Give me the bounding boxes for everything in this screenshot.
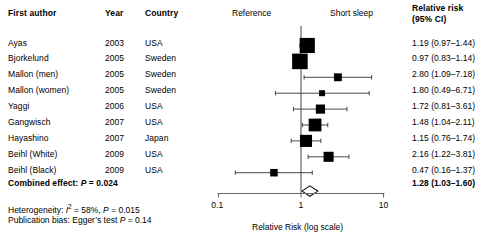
combined-effect-line: Combined effect: P = 0.024 bbox=[8, 178, 118, 188]
heterogeneity-p-value: = 0.015 bbox=[109, 205, 140, 215]
study-marker-box bbox=[334, 73, 342, 81]
combined-effect-p-value: = 0.024 bbox=[86, 178, 117, 188]
forest-plot-figure: First author Year Country Relative risk … bbox=[0, 0, 483, 243]
axis-tick-10: 10 bbox=[379, 200, 388, 210]
publication-bias-p-value: = 0.14 bbox=[125, 215, 151, 225]
study-marker-box bbox=[300, 135, 312, 147]
study-marker-box bbox=[316, 105, 325, 114]
combined-effect-estimate: 1.28 (1.03–1.60) bbox=[412, 178, 475, 188]
axis-tick-1: 1 bbox=[299, 200, 304, 210]
study-marker-box bbox=[270, 169, 277, 176]
pooled-effect-diamond bbox=[302, 186, 318, 196]
heterogeneity-value: = 58%, bbox=[72, 205, 103, 215]
study-marker-box bbox=[300, 38, 315, 53]
axis-title: Relative Risk (log scale) bbox=[252, 222, 343, 232]
axis-tick-0-1: 0.1 bbox=[211, 200, 223, 210]
heterogeneity-prefix: Heterogeneity: bbox=[8, 205, 66, 215]
combined-effect-label: Combined effect: bbox=[8, 178, 78, 188]
publication-bias-prefix: Publication bias: Egger’s test bbox=[8, 215, 120, 225]
study-marker-box bbox=[319, 90, 325, 96]
study-marker-box bbox=[309, 119, 322, 132]
study-marker-box bbox=[324, 152, 334, 162]
study-marker-box bbox=[292, 54, 308, 70]
publication-bias-note: Publication bias: Egger’s test P = 0.14 bbox=[8, 215, 152, 225]
heterogeneity-note: Heterogeneity: I2 = 58%, P = 0.015 bbox=[8, 203, 140, 215]
